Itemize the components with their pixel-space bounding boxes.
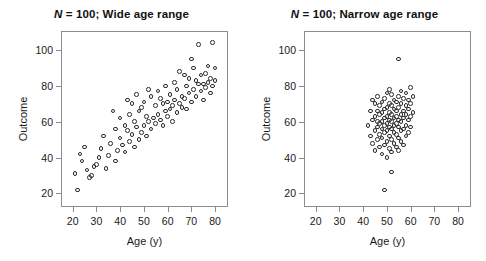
y-axis-tick-label: 100 (31, 44, 53, 56)
x-axis-title: Age (y) (370, 235, 405, 247)
y-axis-tick-label: 80 (274, 80, 296, 92)
data-point (172, 80, 177, 85)
y-axis-tick-label: 100 (274, 44, 296, 56)
y-axis-tick (56, 122, 61, 123)
data-point (146, 119, 151, 124)
panel-narrow-age-range: N = 100; Narrow age range 20304050607080… (243, 0, 486, 261)
y-axis-title: Outcome (17, 97, 29, 142)
data-point (203, 71, 208, 76)
data-point (137, 137, 142, 142)
x-axis-tick (458, 207, 459, 212)
x-axis-tick (191, 207, 192, 212)
data-point (394, 100, 399, 105)
data-point (196, 42, 201, 47)
data-point (404, 91, 409, 96)
data-point (175, 110, 180, 115)
data-point (156, 89, 161, 94)
x-axis-tick (144, 207, 145, 212)
panel-wide-age-range: N = 100; Wide age range 2030405060708020… (0, 0, 243, 261)
data-point (165, 114, 170, 119)
data-point (368, 109, 373, 114)
data-point (168, 92, 173, 97)
x-axis-tick-label: 40 (357, 215, 369, 227)
y-axis-title: Outcome (260, 97, 272, 142)
data-point (144, 114, 149, 119)
y-axis-tick (56, 158, 61, 159)
data-point (368, 134, 373, 139)
data-point (158, 118, 163, 123)
x-axis-tick (363, 207, 364, 212)
y-axis-tick (56, 50, 61, 51)
data-point (85, 168, 90, 173)
data-point (149, 94, 154, 99)
x-axis-tick-label: 50 (381, 215, 393, 227)
data-point (163, 84, 168, 89)
data-point (411, 110, 416, 115)
data-point (191, 66, 196, 71)
x-axis-tick (73, 207, 74, 212)
x-axis-tick-label: 80 (452, 215, 464, 227)
data-point (408, 85, 413, 90)
y-axis-tick (56, 86, 61, 87)
y-axis-tick (299, 122, 304, 123)
x-axis-tick (387, 207, 388, 212)
data-point (73, 171, 78, 176)
data-point (375, 137, 380, 142)
data-point (382, 96, 387, 101)
data-point (149, 127, 154, 132)
data-point (184, 107, 189, 112)
x-axis-tick-label: 50 (138, 215, 150, 227)
data-point (125, 98, 130, 103)
data-point (366, 123, 371, 128)
data-point (401, 143, 406, 148)
data-point (125, 128, 130, 133)
y-axis-tick (299, 158, 304, 159)
data-point (399, 101, 404, 106)
data-point (123, 150, 128, 155)
data-point (113, 159, 118, 164)
data-point (99, 146, 104, 151)
x-axis-tick-label: 40 (114, 215, 126, 227)
data-point (411, 94, 416, 99)
data-point (385, 155, 390, 160)
data-point (97, 155, 102, 160)
x-axis-tick-label: 20 (310, 215, 322, 227)
x-axis-tick (120, 207, 121, 212)
data-point (201, 98, 206, 103)
plot-area-right (304, 31, 471, 207)
data-point (177, 69, 182, 74)
y-axis-tick-label: 20 (274, 187, 296, 199)
data-point (370, 141, 375, 146)
data-point (132, 145, 137, 150)
data-point (206, 64, 211, 69)
y-axis-tick (56, 193, 61, 194)
x-axis-tick (411, 207, 412, 212)
x-axis-tick-label: 20 (67, 215, 79, 227)
data-point (396, 148, 401, 153)
data-point (134, 125, 139, 130)
data-point (399, 119, 404, 124)
data-point (199, 89, 204, 94)
data-point (134, 92, 139, 97)
data-point (170, 119, 175, 124)
x-axis-tick-label: 30 (91, 215, 103, 227)
data-point (163, 109, 168, 114)
x-axis-tick-label: 70 (186, 215, 198, 227)
data-point (120, 143, 125, 148)
data-point (406, 107, 411, 112)
data-point (104, 166, 109, 171)
data-point (191, 87, 196, 92)
data-point (408, 125, 413, 130)
data-point (210, 40, 215, 45)
data-point (144, 134, 149, 139)
data-point (175, 87, 180, 92)
data-point (213, 66, 218, 71)
x-axis-tick-label: 60 (405, 215, 417, 227)
y-axis-tick (299, 193, 304, 194)
data-point (380, 110, 385, 115)
x-axis-tick (316, 207, 317, 212)
data-point (203, 85, 208, 90)
data-point (153, 121, 158, 126)
x-axis-tick (339, 207, 340, 212)
data-point (389, 150, 394, 155)
